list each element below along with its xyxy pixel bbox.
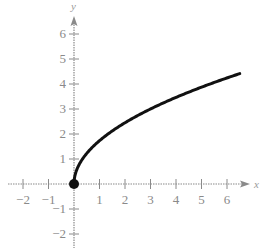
y-axis-label: y	[70, 0, 76, 12]
sqrt-curve	[74, 74, 240, 184]
x-axis-label: x	[253, 178, 259, 190]
y-tick-label: 1	[60, 151, 67, 166]
x-tick-label: 3	[147, 192, 154, 207]
x-tick-label: 1	[96, 192, 103, 207]
y-tick-label: 6	[60, 26, 67, 41]
y-tick-label: 3	[60, 101, 67, 116]
tick-labels: −2−1123456−2−1123456	[16, 26, 231, 241]
x-tick-label: 4	[173, 192, 180, 207]
x-tick-label: 6	[224, 192, 231, 207]
y-tick-label: 4	[60, 76, 67, 91]
chart: −2−1123456−2−1123456 x y	[0, 0, 262, 251]
y-tick-label: −1	[52, 201, 66, 216]
axes	[8, 16, 250, 248]
x-tick-label: 5	[198, 192, 205, 207]
x-tick-label: −2	[16, 192, 30, 207]
y-tick-label: 5	[60, 51, 67, 66]
y-tick-label: 2	[60, 126, 67, 141]
endpoint-dot	[69, 179, 79, 189]
x-tick-label: 2	[122, 192, 129, 207]
y-tick-label: −2	[52, 226, 66, 241]
